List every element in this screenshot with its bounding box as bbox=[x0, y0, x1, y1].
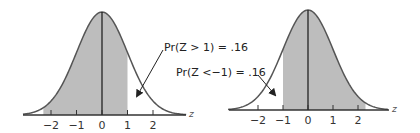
tick-label: −2 bbox=[250, 114, 266, 127]
right-z-axis-label: z bbox=[391, 104, 397, 114]
tick-label: 1 bbox=[124, 119, 131, 132]
tick-label: 1 bbox=[330, 114, 337, 127]
left-z-axis-label: z bbox=[188, 109, 194, 119]
tick-label: 0 bbox=[305, 114, 312, 127]
tick-label: 2 bbox=[150, 119, 157, 132]
normal-distribution-figure: −2−1012 z Pr(Z > 1) = .16 −2−1012 z Pr(Z… bbox=[0, 0, 420, 133]
right-annotation: Pr(Z <−1) = .16 bbox=[176, 66, 266, 79]
tick-label: −1 bbox=[275, 114, 291, 127]
tick-label: 0 bbox=[99, 119, 106, 132]
tick-label: −2 bbox=[43, 119, 59, 132]
left-annotation: Pr(Z > 1) = .16 bbox=[164, 41, 248, 54]
right-normal-curve-chart: −2−1012 z Pr(Z <−1) = .16 bbox=[176, 10, 397, 127]
tick-label: 2 bbox=[355, 114, 362, 127]
tick-label: −1 bbox=[68, 119, 84, 132]
left-annotation-arrow bbox=[137, 50, 163, 96]
right-shaded-area bbox=[283, 10, 366, 110]
left-shaded-area bbox=[43, 12, 127, 115]
